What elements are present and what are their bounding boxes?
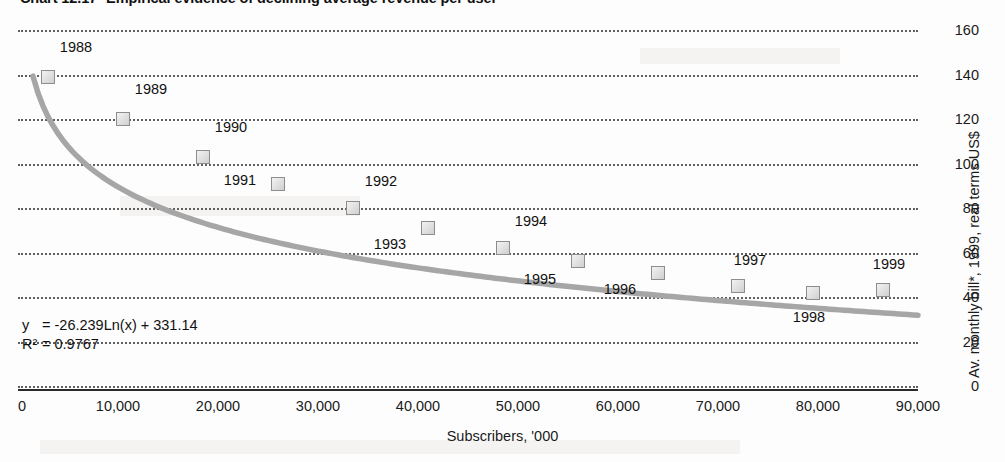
page-title: Chart 12.17Empirical evidence of declini… bbox=[20, 0, 497, 6]
x-axis-tick-label: 50,000 bbox=[496, 398, 540, 414]
y-axis-tick-label: 40 bbox=[933, 289, 979, 305]
data-point-label-1994: 1994 bbox=[515, 213, 547, 229]
chart-number: Chart 12.17 bbox=[20, 0, 97, 6]
data-point-label-1989: 1989 bbox=[135, 81, 167, 97]
plot-area: 1988198919901991199219931994199519961997… bbox=[18, 30, 918, 386]
x-axis-tick-label: 0 bbox=[18, 398, 26, 414]
data-point-marker bbox=[876, 283, 890, 297]
data-point-label-1991: 1991 bbox=[224, 172, 256, 188]
x-axis-tick-label: 40,000 bbox=[396, 398, 440, 414]
data-point-marker bbox=[651, 266, 665, 280]
data-point-label-1993: 1993 bbox=[374, 236, 406, 252]
x-axis-tick-label: 30,000 bbox=[296, 398, 340, 414]
data-point-marker bbox=[571, 254, 585, 268]
x-axis-tick-label: 60,000 bbox=[596, 398, 640, 414]
data-point-label-1998: 1998 bbox=[793, 309, 825, 325]
data-point-marker bbox=[731, 279, 745, 293]
data-point-label-1995: 1995 bbox=[524, 271, 556, 287]
data-point-marker bbox=[196, 150, 210, 164]
data-point-label-1996: 1996 bbox=[604, 281, 636, 297]
y-axis-tick-label: 100 bbox=[933, 156, 979, 172]
data-point-label-1997: 1997 bbox=[734, 252, 766, 268]
data-point-label-1999: 1999 bbox=[873, 256, 905, 272]
data-point-marker bbox=[271, 177, 285, 191]
gridline-y bbox=[18, 386, 918, 388]
data-point-marker bbox=[496, 241, 510, 255]
x-axis-tick-label: 80,000 bbox=[796, 398, 840, 414]
x-axis-tick-label: 10,000 bbox=[96, 398, 140, 414]
y-axis-tick-label: 20 bbox=[933, 334, 979, 350]
x-axis-tick-label: 70,000 bbox=[696, 398, 740, 414]
data-point-label-1990: 1990 bbox=[215, 119, 247, 135]
y-axis-tick-label: 0 bbox=[933, 378, 979, 394]
data-point-marker bbox=[41, 70, 55, 84]
x-axis-line bbox=[18, 389, 918, 391]
y-axis-tick-label: 120 bbox=[933, 111, 979, 127]
data-point-marker bbox=[346, 201, 360, 215]
data-point-marker bbox=[806, 286, 820, 300]
y-axis-tick-label: 140 bbox=[933, 67, 979, 83]
y-axis-tick-label: 80 bbox=[933, 200, 979, 216]
data-point-marker bbox=[116, 112, 130, 126]
data-point-label-1992: 1992 bbox=[365, 173, 397, 189]
chart-title-text: Empirical evidence of declining average … bbox=[106, 0, 497, 6]
data-point-marker bbox=[421, 221, 435, 235]
chart-page: Chart 12.17Empirical evidence of declini… bbox=[0, 0, 1005, 462]
x-axis-title: Subscribers, '000 bbox=[0, 428, 1005, 444]
y-axis-tick-label: 60 bbox=[933, 245, 979, 261]
x-axis-tick-label: 90,000 bbox=[896, 398, 940, 414]
data-point-label-1988: 1988 bbox=[60, 39, 92, 55]
x-axis-tick-label: 20,000 bbox=[196, 398, 240, 414]
y-axis-tick-label: 160 bbox=[933, 22, 979, 38]
